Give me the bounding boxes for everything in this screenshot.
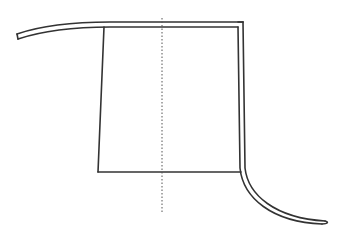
- pattern-outline: [17, 22, 327, 224]
- top-band-outer: [17, 22, 243, 34]
- garment-pattern-diagram: [0, 0, 343, 238]
- diagram-canvas: [0, 0, 343, 238]
- top-band-inner: [18, 27, 238, 39]
- right-band-inner: [238, 27, 322, 224]
- right-band-outer: [243, 22, 325, 221]
- top-band-endcap: [17, 34, 18, 39]
- panel-left-edge: [98, 27, 104, 172]
